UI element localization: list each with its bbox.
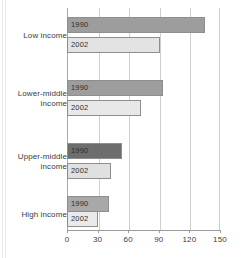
bar-series-label: 2002 bbox=[71, 104, 89, 112]
bar-chart: 0306090120150 Low incomeLower-middleinco… bbox=[0, 0, 241, 258]
x-tick-label: 150 bbox=[213, 235, 227, 244]
x-tick-label: 0 bbox=[65, 235, 70, 244]
gridline-90 bbox=[160, 8, 161, 230]
bar-series-label: 2002 bbox=[71, 167, 89, 175]
bar-series-label: 2002 bbox=[71, 41, 89, 49]
x-tick-label: 60 bbox=[124, 235, 133, 244]
bar: 1990 bbox=[67, 143, 122, 159]
bar-series-label: 1990 bbox=[71, 147, 89, 155]
bar-series-label: 1990 bbox=[71, 84, 89, 92]
category-label: Low income bbox=[1, 31, 67, 41]
bar-series-label: 1990 bbox=[71, 21, 89, 29]
x-tick-90 bbox=[159, 230, 160, 233]
bar: 2002 bbox=[67, 163, 111, 179]
bar: 2002 bbox=[67, 211, 98, 227]
x-tick-150 bbox=[220, 230, 221, 233]
category-label-line: High income bbox=[1, 210, 67, 220]
x-axis-line bbox=[67, 230, 221, 231]
category-label: High income bbox=[1, 210, 67, 220]
bar-series-label: 1990 bbox=[71, 200, 89, 208]
x-tick-60 bbox=[128, 230, 129, 233]
bar: 1990 bbox=[67, 17, 205, 33]
bar: 2002 bbox=[67, 100, 141, 116]
x-tick-label: 120 bbox=[182, 235, 196, 244]
x-tick-label: 30 bbox=[93, 235, 102, 244]
category-label: Upper-middleincome bbox=[1, 152, 67, 171]
category-label-line: income bbox=[1, 162, 67, 172]
bar: 2002 bbox=[67, 37, 160, 53]
x-tick-0 bbox=[67, 230, 68, 233]
x-tick-30 bbox=[98, 230, 99, 233]
category-label: Lower-middleincome bbox=[1, 89, 67, 108]
x-tick-label: 90 bbox=[154, 235, 163, 244]
category-label-line: Upper-middle bbox=[1, 152, 67, 162]
gridline-120 bbox=[190, 8, 191, 230]
category-label-line: income bbox=[1, 99, 67, 109]
category-label-line: Low income bbox=[1, 31, 67, 41]
category-label-line: Lower-middle bbox=[1, 89, 67, 99]
bar: 1990 bbox=[67, 80, 163, 96]
bar: 1990 bbox=[67, 196, 109, 212]
bar-series-label: 2002 bbox=[71, 215, 89, 223]
x-tick-120 bbox=[189, 230, 190, 233]
